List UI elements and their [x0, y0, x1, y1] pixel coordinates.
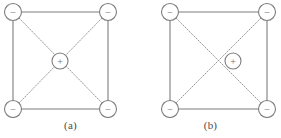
charge-sign: −	[10, 104, 16, 115]
charge-sign: −	[264, 104, 270, 115]
panel-a-diagram: − − − − +	[0, 0, 141, 118]
charge-sign: −	[105, 7, 111, 18]
charge-sign: +	[230, 56, 236, 67]
charge-bottom-right-a: −	[100, 101, 117, 118]
panel-b-diagram: − − − − +	[140, 0, 281, 118]
charge-bottom-right-b: −	[259, 101, 276, 118]
charge-sign: −	[264, 7, 270, 18]
charge-bottom-left-a: −	[5, 101, 22, 118]
charge-sign: −	[167, 7, 173, 18]
figure-panel-a: − − − − + (a)	[0, 0, 141, 138]
charge-sign: −	[105, 104, 111, 115]
charge-top-right-a: −	[100, 4, 117, 21]
charge-sign: −	[10, 7, 16, 18]
charge-sign: +	[57, 56, 63, 67]
charge-center-b: +	[225, 53, 241, 69]
figure-panel-b: − − − − + (b)	[140, 0, 281, 138]
charge-sign: −	[167, 104, 173, 115]
charge-center-a: +	[52, 53, 68, 69]
charge-top-left-b: −	[162, 4, 179, 21]
charge-bottom-left-b: −	[162, 101, 179, 118]
panel-a-caption: (a)	[0, 118, 141, 132]
charge-top-right-b: −	[259, 4, 276, 21]
panel-b-caption: (b)	[140, 118, 281, 132]
charge-top-left-a: −	[5, 4, 22, 21]
diagonals-b	[176, 18, 261, 103]
charge-configuration-figure: − − − − + (a)	[0, 0, 281, 138]
